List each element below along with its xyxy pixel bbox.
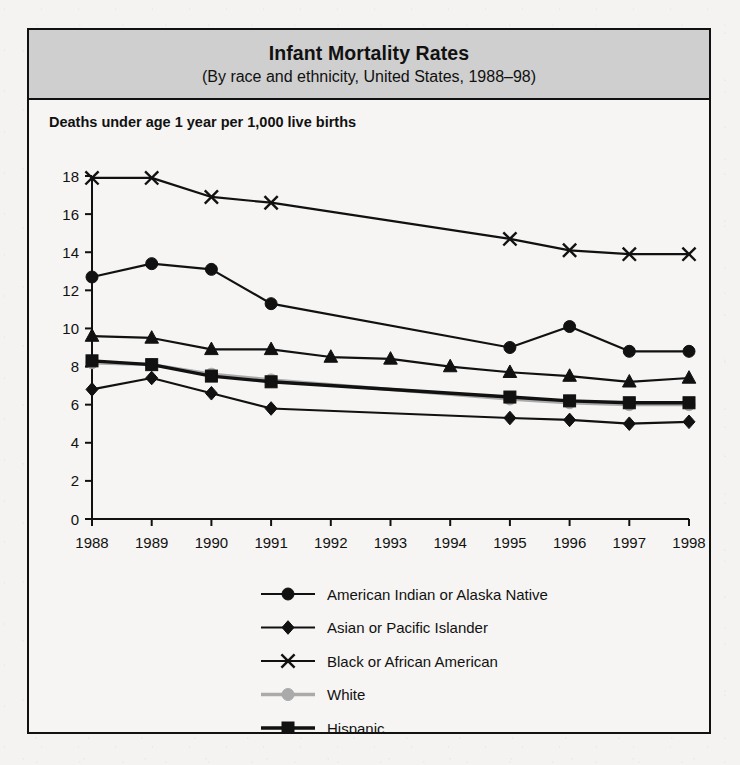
x-tick-label: 1994 <box>434 534 467 551</box>
x-tick-label: 1988 <box>75 534 108 551</box>
legend-item-american-indian-or-alaska-native: American Indian or Alaska Native <box>261 586 548 603</box>
x-tick-label: 1993 <box>374 534 407 551</box>
y-tick-label: 4 <box>71 434 79 451</box>
y-tick-label: 18 <box>62 168 79 185</box>
x-tick-label: 1992 <box>314 534 347 551</box>
series-black-or-african-american <box>85 171 695 260</box>
legend-item-hispanic: Hispanic <box>261 720 385 733</box>
legend-label: Hispanic <box>327 720 385 733</box>
chart-figure: Infant Mortality Rates (By race and ethn… <box>27 28 711 734</box>
line-chart: 0246810121416181988198919901991199219931… <box>29 134 709 732</box>
page-title: Infant Mortality Rates <box>269 42 469 64</box>
x-tick-label: 1996 <box>553 534 586 551</box>
legend-label: Asian or Pacific Islander <box>327 619 488 636</box>
x-tick-label: 1989 <box>135 534 168 551</box>
legend-item-white: White <box>261 686 365 703</box>
x-tick-label: 1991 <box>254 534 287 551</box>
x-tick-label: 1998 <box>672 534 705 551</box>
y-axis-caption: Deaths under age 1 year per 1,000 live b… <box>49 114 356 130</box>
y-tick-label: 8 <box>71 358 79 375</box>
y-tick-label: 0 <box>71 511 79 528</box>
y-tick-label: 12 <box>62 282 79 299</box>
legend-label: White <box>327 686 365 703</box>
y-tick-label: 16 <box>62 206 79 223</box>
legend-item-black-or-african-american: Black or African American <box>261 653 498 670</box>
y-tick-label: 6 <box>71 396 79 413</box>
y-tick-label: 14 <box>62 244 79 261</box>
legend-label: Black or African American <box>327 653 498 670</box>
plot-area: 0246810121416181988198919901991199219931… <box>29 134 709 732</box>
y-tick-label: 10 <box>62 320 79 337</box>
x-tick-label: 1997 <box>613 534 646 551</box>
y-tick-label: 2 <box>71 472 79 489</box>
series-total <box>85 329 696 387</box>
legend-label: American Indian or Alaska Native <box>327 586 548 603</box>
chart-subtitle: (By race and ethnicity, United States, 1… <box>202 67 536 86</box>
x-tick-label: 1990 <box>195 534 228 551</box>
title-banner: Infant Mortality Rates (By race and ethn… <box>29 30 709 100</box>
x-tick-label: 1995 <box>493 534 526 551</box>
legend-item-asian-or-pacific-islander: Asian or Pacific Islander <box>261 619 488 636</box>
